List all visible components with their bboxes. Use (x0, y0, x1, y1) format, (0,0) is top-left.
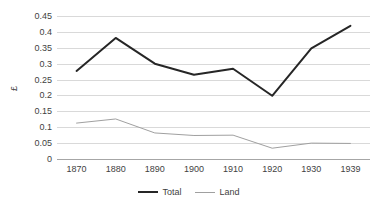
x-tick-label: 1939 (328, 164, 372, 175)
y-tick-label: 0.45 (14, 12, 52, 21)
y-tick-label: 0.05 (14, 139, 52, 148)
y-tick-label: 0.3 (14, 59, 52, 68)
y-tick-label: 0.25 (14, 75, 52, 84)
legend-item-land[interactable]: Land (195, 187, 239, 197)
series-layer (57, 16, 370, 159)
y-tick-label: 0.35 (14, 43, 52, 52)
x-axis-line (57, 159, 370, 160)
x-tick-label: 1910 (211, 164, 255, 175)
chart-legend: Total Land (0, 184, 378, 200)
y-tick-label: 0 (14, 155, 52, 164)
legend-label-land: Land (219, 187, 239, 197)
legend-label-total: Total (162, 187, 181, 197)
y-tick-label: 0.2 (14, 91, 52, 100)
series-line-land (77, 119, 351, 148)
x-tick-label: 1930 (289, 164, 333, 175)
y-tick-label: 0.15 (14, 107, 52, 116)
x-tick-label: 1920 (250, 164, 294, 175)
y-axis-tick-labels: 0.450.40.350.30.250.20.150.10.050 (14, 0, 52, 208)
x-tick-label: 1890 (133, 164, 177, 175)
x-tick-label: 1880 (94, 164, 138, 175)
plot-area (57, 16, 370, 159)
legend-item-total[interactable]: Total (138, 187, 181, 197)
series-line-total (77, 26, 351, 96)
line-chart: £ 0.450.40.350.30.250.20.150.10.050 1870… (0, 0, 378, 208)
y-tick-label: 0.4 (14, 27, 52, 36)
legend-swatch-total-icon (138, 191, 158, 193)
x-tick-label: 1870 (55, 164, 99, 175)
x-tick-label: 1900 (172, 164, 216, 175)
legend-swatch-land-icon (195, 192, 215, 193)
x-axis-tick-labels: 18701880189019001910192019301939 (57, 164, 370, 178)
y-tick-label: 0.1 (14, 123, 52, 132)
